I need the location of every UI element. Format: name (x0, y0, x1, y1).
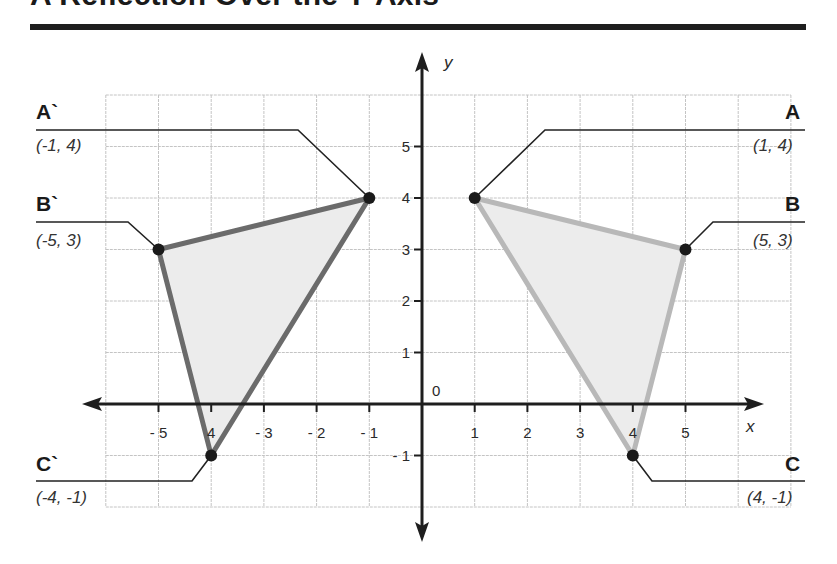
x-tick-label: 5 (681, 424, 689, 441)
x-tick-label: - 2 (308, 424, 326, 441)
x-tick-label: 1 (471, 424, 479, 441)
vertex-dot (153, 244, 165, 256)
y-axis-label: y (443, 53, 454, 72)
coord-c-prime: (-4, -1) (36, 488, 87, 508)
vertex-dot (363, 192, 375, 204)
coord-a: (1, 4) (753, 136, 793, 156)
vertex-dot (680, 244, 692, 256)
x-tick-label: 4 (207, 424, 215, 441)
y-tick-label: 5 (402, 138, 410, 155)
label-c: C (785, 452, 800, 476)
vertex-dot (205, 450, 217, 462)
origin-label: 0 (432, 382, 440, 399)
x-tick-label: 2 (523, 424, 531, 441)
coord-a-prime: (-1, 4) (36, 136, 81, 156)
vertex-dot (469, 192, 481, 204)
x-tick-label: - 3 (255, 424, 273, 441)
y-tick-label: 3 (402, 241, 410, 258)
x-axis-label: x (745, 417, 755, 436)
coord-b: (5, 3) (753, 231, 793, 251)
leader-c (633, 456, 805, 482)
label-a: A (785, 100, 800, 124)
x-tick-label: 3 (576, 424, 584, 441)
label-c-prime: C` (36, 452, 58, 476)
x-tick-label: - 5 (150, 424, 168, 441)
vertex-dot (627, 450, 639, 462)
y-tick-label: 2 (402, 292, 410, 309)
y-tick-label: - 1 (392, 447, 410, 464)
coord-b-prime: (-5, 3) (36, 231, 81, 251)
label-b-prime: B` (36, 192, 58, 216)
y-tick-label: 1 (402, 344, 410, 361)
y-tick-label: 4 (402, 189, 410, 206)
label-a-prime: A` (36, 100, 58, 124)
label-b: B (785, 192, 800, 216)
coord-c: (4, -1) (747, 488, 792, 508)
leader-c-prime (36, 456, 211, 482)
coordinate-plane: - 54- 3- 2- 11234554321- 10xy (0, 0, 837, 564)
leader-a-prime (36, 130, 369, 198)
x-tick-label: 4 (629, 424, 637, 441)
x-tick-label: - 1 (361, 424, 379, 441)
